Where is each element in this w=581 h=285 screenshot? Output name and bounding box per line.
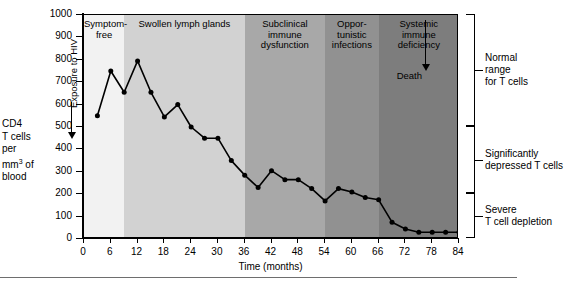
data-point (135, 58, 140, 63)
y-axis-title: CD4 T cells per mm3 of blood (2, 118, 48, 184)
data-point (189, 125, 194, 130)
series-polyline (97, 61, 458, 232)
y-tick (76, 148, 83, 149)
x-tick (163, 238, 164, 243)
y-tick (76, 238, 83, 239)
death-label: Death (388, 70, 422, 81)
x-tick-label: 66 (363, 246, 393, 257)
data-point (122, 90, 127, 95)
x-tick-label: 12 (122, 246, 152, 257)
x-tick-label: 6 (95, 246, 125, 257)
data-point (430, 230, 435, 235)
data-point (390, 220, 395, 225)
data-point (323, 198, 328, 203)
data-point (202, 136, 207, 141)
x-tick-label: 42 (256, 246, 286, 257)
data-point (363, 195, 368, 200)
y-axis-title-of: of (23, 159, 34, 170)
data-point (108, 69, 113, 74)
data-point (336, 186, 341, 191)
data-point (457, 230, 459, 235)
plot-area: Symptom- freeSwollen lymph glandsSubclin… (83, 14, 458, 238)
cd4-tcell-decline-figure: Symptom- freeSwollen lymph glandsSubclin… (0, 0, 581, 285)
y-axis-unit-mm: mm (2, 159, 19, 170)
phase-band-label-swollen-lymph-glands: Swollen lymph glands (124, 19, 245, 30)
x-tick-label: 36 (229, 246, 259, 257)
data-point (443, 230, 448, 235)
x-tick-label: 60 (336, 246, 366, 257)
x-tick-label: 24 (175, 246, 205, 257)
x-tick (378, 238, 379, 243)
bracket-label-severe-t-cell-depletion: Severe T cell depletion (485, 204, 577, 228)
x-tick (297, 238, 298, 243)
exposure-to-hiv-annotation: Exposure to HIV (60, 40, 82, 142)
data-point (148, 90, 153, 95)
x-tick (190, 238, 191, 243)
x-tick-label: 54 (309, 246, 339, 257)
x-tick-label: 0 (68, 246, 98, 257)
data-point (309, 186, 314, 191)
bracket-label-significantly-depressed: Significantly depressed T cells (485, 148, 577, 172)
y-axis-title-line-1: CD4 (2, 118, 48, 131)
y-tick-label: 1000 (40, 8, 72, 19)
bracket-normal-range (466, 14, 475, 126)
bracket-stem-significantly-depressed (475, 160, 483, 161)
x-tick-label: 84 (443, 246, 473, 257)
x-axis-title: Time (months) (83, 261, 458, 272)
data-point (282, 177, 287, 182)
phase-band-label-systemic-immune-deficiency: Systemic immune deficiency (379, 19, 458, 51)
bracket-stem-severe-t-cell-depletion (475, 216, 483, 217)
bracket-significantly-depressed (466, 126, 475, 193)
x-tick (83, 238, 84, 243)
y-tick-label: 100 (40, 210, 72, 221)
data-point (296, 177, 301, 182)
bracket-stem-normal-range (475, 70, 483, 71)
x-tick (137, 238, 138, 243)
bracket-label-normal-range: Normal range for T cells (485, 52, 577, 88)
phase-band-label-opportunistic-infections: Oppor- tunistic infections (325, 19, 379, 51)
x-tick (324, 238, 325, 243)
x-tick-label: 78 (416, 246, 446, 257)
x-tick-label: 48 (282, 246, 312, 257)
x-tick (217, 238, 218, 243)
y-tick (76, 216, 83, 217)
data-point (95, 113, 100, 118)
bracket-severe-t-cell-depletion (466, 193, 475, 238)
x-tick (271, 238, 272, 243)
y-axis-title-line-4: mm3 of (2, 156, 48, 172)
x-tick (244, 238, 245, 243)
phase-band-label-subclinical-immune-dysfunction: Subclinical immune dysfunction (245, 19, 325, 51)
y-axis-title-line-3: per (2, 143, 48, 156)
data-point (162, 114, 167, 119)
data-point (256, 185, 261, 190)
data-point (349, 189, 354, 194)
x-tick-label: 30 (202, 246, 232, 257)
x-tick (351, 238, 352, 243)
death-arrow-icon (425, 20, 426, 68)
data-point (175, 102, 180, 107)
exposure-arrow-icon (71, 102, 72, 134)
data-point (376, 197, 381, 202)
series-markers (95, 58, 458, 234)
data-point (403, 226, 408, 231)
data-point (229, 158, 234, 163)
x-tick-label: 18 (148, 246, 178, 257)
y-tick (76, 193, 83, 194)
exposure-to-hiv-label: Exposure to HIV (68, 37, 79, 111)
x-tick (458, 238, 459, 243)
y-axis-title-line-2: T cells (2, 131, 48, 144)
data-point (416, 230, 421, 235)
y-tick-label: 0 (40, 232, 72, 243)
data-point (242, 173, 247, 178)
footer-divider (0, 277, 517, 278)
data-point (215, 136, 220, 141)
data-point (269, 168, 274, 173)
x-tick (110, 238, 111, 243)
y-tick-label: 200 (40, 187, 72, 198)
y-tick (76, 14, 83, 15)
x-tick (404, 238, 405, 243)
x-tick-label: 72 (389, 246, 419, 257)
phase-band-label-symptom-free: Symptom- free (84, 19, 124, 40)
y-tick (76, 171, 83, 172)
x-tick (431, 238, 432, 243)
